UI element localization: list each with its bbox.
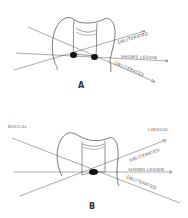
buccal-label: BUCCAL (8, 124, 28, 129)
panel-a: OBLITERATED SHOWS LESION OBLITERATED A (14, 18, 168, 90)
lesion-a-right (91, 54, 98, 60)
ray-label-b-top: OBLITERATED (129, 147, 161, 163)
panel-label-b: B (89, 202, 95, 211)
lesion-b (89, 169, 98, 175)
panel-b: BUCCAL LINGUAL OBLITERATED SHOWS LESION … (8, 124, 180, 211)
lingual-label: LINGUAL (148, 127, 169, 132)
panel-label-a: A (78, 81, 85, 90)
lesion-a-left (70, 52, 77, 58)
ray-label-b-mid: SHOWS LESION (128, 167, 164, 172)
ray-label-a-top: OBLITERATED (117, 31, 149, 45)
restoration-walls-a (73, 20, 74, 54)
ray-label-a-mid: SHOWS LESION (121, 54, 157, 60)
dental-radiograph-diagram: OBLITERATED SHOWS LESION OBLITERATED A B… (0, 0, 188, 218)
tooth-outline-a (52, 18, 115, 72)
ray-label-a-bottom: OBLITERATED (114, 60, 145, 77)
